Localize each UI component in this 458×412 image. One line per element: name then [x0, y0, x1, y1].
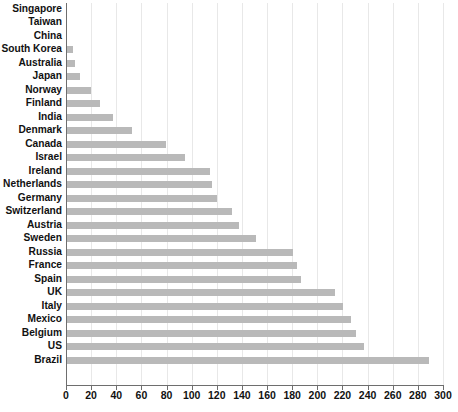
bar-row: Australia: [0, 57, 458, 70]
bar-category-label: France: [0, 259, 62, 271]
bar: [67, 208, 232, 215]
bar-category-label: Japan: [0, 70, 62, 82]
bar-category-label: China: [0, 30, 62, 42]
bar-row: Spain: [0, 273, 458, 286]
bar-row: Brazil: [0, 354, 458, 367]
bar: [67, 73, 80, 80]
bar: [67, 46, 73, 53]
bar-row: Finland: [0, 97, 458, 110]
bar-row: Germany: [0, 192, 458, 205]
bar: [67, 114, 113, 121]
x-axis-tick-label: 120: [208, 389, 226, 401]
bar: [67, 195, 217, 202]
bar-category-label: Ireland: [0, 165, 62, 177]
x-axis-tick-label: 140: [233, 389, 251, 401]
bar-row: China: [0, 30, 458, 43]
bar-chart: 0204060801001201401601802002202402602803…: [0, 0, 458, 412]
x-axis-tick-label: 40: [110, 389, 122, 401]
bar-row: Denmark: [0, 124, 458, 137]
bar-category-label: Netherlands: [0, 178, 62, 190]
x-axis-tick-labels: 0204060801001201401601802002202402602803…: [0, 389, 458, 407]
bar-category-label: Norway: [0, 84, 62, 96]
bar: [67, 316, 351, 323]
bar-category-label: Russia: [0, 246, 62, 258]
bar: [67, 357, 429, 364]
bar-row: Singapore: [0, 3, 458, 16]
bar-category-label: Taiwan: [0, 16, 62, 28]
bar-category-label: Canada: [0, 138, 62, 150]
bar-category-label: Spain: [0, 273, 62, 285]
bar-row: Mexico: [0, 313, 458, 326]
bar-category-label: Switzerland: [0, 205, 62, 217]
bar-category-label: Singapore: [0, 3, 62, 15]
bar-category-label: UK: [0, 286, 62, 298]
bar: [67, 141, 166, 148]
bar: [67, 289, 335, 296]
x-axis-tick-label: 100: [183, 389, 201, 401]
x-axis-tick-label: 0: [63, 389, 69, 401]
x-axis-tick-label: 20: [85, 389, 97, 401]
bar-row: Belgium: [0, 327, 458, 340]
bar-category-label: Finland: [0, 97, 62, 109]
bar-row: South Korea: [0, 43, 458, 56]
bar-category-label: Australia: [0, 57, 62, 69]
bar-category-label: Germany: [0, 192, 62, 204]
bar-category-label: India: [0, 111, 62, 123]
bar-category-label: Austria: [0, 219, 62, 231]
bar-row: Italy: [0, 300, 458, 313]
bar: [67, 222, 239, 229]
bar-row: France: [0, 259, 458, 272]
bar: [67, 276, 301, 283]
bar-row: Netherlands: [0, 178, 458, 191]
bar: [67, 154, 185, 161]
x-axis-tick-label: 240: [359, 389, 377, 401]
bar-category-label: Belgium: [0, 327, 62, 339]
bar: [67, 249, 293, 256]
x-axis-tick-label: 180: [283, 389, 301, 401]
bar-category-label: Denmark: [0, 124, 62, 136]
bar: [67, 168, 210, 175]
x-axis-tick-label: 260: [384, 389, 402, 401]
bar-row: Ireland: [0, 165, 458, 178]
bar: [67, 100, 100, 107]
bar-category-label: Italy: [0, 300, 62, 312]
bar-category-label: Brazil: [0, 354, 62, 366]
bar: [67, 60, 75, 67]
x-axis-tick-label: 220: [334, 389, 352, 401]
bar-row: Japan: [0, 70, 458, 83]
bar-category-label: US: [0, 340, 62, 352]
bar: [67, 330, 356, 337]
bar-row: Austria: [0, 219, 458, 232]
bar-row: Israel: [0, 151, 458, 164]
bar-row: Sweden: [0, 232, 458, 245]
bar-row: Canada: [0, 138, 458, 151]
x-axis-tick-label: 300: [434, 389, 452, 401]
bar-row: Norway: [0, 84, 458, 97]
bar: [67, 303, 343, 310]
bar: [67, 343, 364, 350]
bar-row: UK: [0, 286, 458, 299]
bar: [67, 181, 212, 188]
bar: [67, 87, 91, 94]
bar-row: India: [0, 111, 458, 124]
bar-category-label: Israel: [0, 151, 62, 163]
bar-rows: SingaporeTaiwanChinaSouth KoreaAustralia…: [0, 3, 458, 385]
x-axis-tick-label: 280: [409, 389, 427, 401]
bar-row: Russia: [0, 246, 458, 259]
bar-category-label: Sweden: [0, 232, 62, 244]
bar-row: US: [0, 340, 458, 353]
bar: [67, 127, 132, 134]
bar: [67, 262, 297, 269]
x-axis-tick-label: 200: [309, 389, 327, 401]
bar-category-label: South Korea: [0, 43, 62, 55]
bar: [67, 235, 256, 242]
bar-category-label: Mexico: [0, 313, 62, 325]
bar-row: Taiwan: [0, 16, 458, 29]
x-axis-tick-label: 160: [258, 389, 276, 401]
x-axis-tick-label: 60: [136, 389, 148, 401]
bar-row: Switzerland: [0, 205, 458, 218]
x-axis-tick-label: 80: [161, 389, 173, 401]
